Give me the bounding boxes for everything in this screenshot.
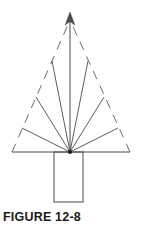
trunk-rectangle — [54, 152, 83, 202]
ray-right-inner — [70, 61, 88, 152]
figure-illustration — [0, 0, 141, 205]
vertex-point-dot — [68, 150, 72, 154]
figure-caption: FIGURE 12-8 — [3, 208, 141, 226]
triangle-dashed-right-side — [70, 20, 130, 152]
ray-left-inner — [52, 61, 70, 152]
triangle-dashed-left-side — [12, 20, 70, 152]
figure-svg — [0, 0, 141, 205]
